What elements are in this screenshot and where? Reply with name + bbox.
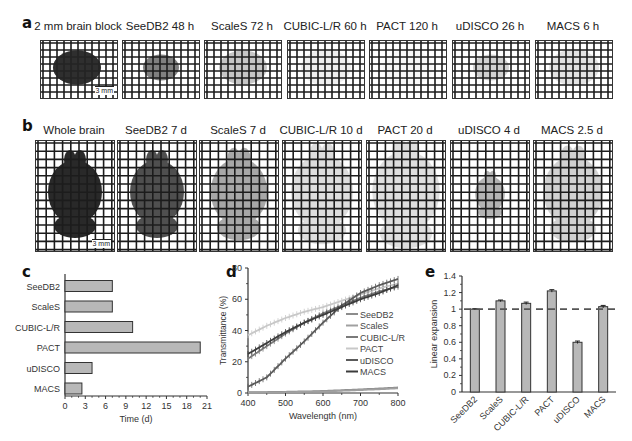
x-tick-label: 400 bbox=[240, 398, 255, 408]
y-tick-label: 1.4 bbox=[443, 271, 456, 281]
bar bbox=[65, 322, 133, 333]
category-label: uDISCO bbox=[26, 364, 60, 374]
panel-a-tissue-image: 3 mm bbox=[40, 40, 118, 99]
panel-c-clearing-time-bar-chart: SeeDB2ScaleSCUBIC-L/RPACTuDISCOMACS03691… bbox=[0, 260, 220, 441]
bar bbox=[496, 301, 505, 392]
x-tick-label: 3 bbox=[83, 401, 88, 411]
panel-b-brain-image: 3 mm bbox=[35, 140, 115, 252]
bar bbox=[65, 363, 92, 374]
x-tick-label: 15 bbox=[161, 401, 171, 411]
panel-a-tissue-image bbox=[287, 40, 365, 99]
bar bbox=[573, 342, 582, 392]
panel-a-tile-title: SeeDB2 48 h bbox=[116, 20, 204, 32]
panel-b-brain-image bbox=[533, 140, 613, 252]
x-axis-title: Wavelength (nm) bbox=[289, 411, 357, 421]
panel-a-tile-title: MACS 6 h bbox=[529, 20, 617, 32]
tissue-sample bbox=[549, 50, 599, 86]
category-label: ScaleS bbox=[31, 302, 60, 312]
panel-b-tile-title: MACS 2.5 d bbox=[527, 124, 617, 136]
y-tick-label: 0.4 bbox=[443, 354, 456, 364]
panel-b-brain-image bbox=[450, 140, 530, 252]
panel-a-tissue-image bbox=[369, 40, 447, 99]
legend-label: uDISCO bbox=[360, 356, 394, 366]
panel-a-tissue-image bbox=[535, 40, 613, 99]
panel-label-a: a bbox=[22, 14, 32, 32]
scale-bar: 3 mm bbox=[95, 86, 115, 95]
legend-label: CUBIC-L/R bbox=[360, 333, 406, 343]
x-tick-label: 600 bbox=[315, 398, 330, 408]
panel-b-tile-title: ScaleS 7 d bbox=[193, 124, 283, 136]
panel-b-tile-title: SeeDB2 7 d bbox=[111, 124, 201, 136]
bar bbox=[599, 307, 608, 392]
panel-a-tissue-image bbox=[204, 40, 282, 99]
x-axis-title: Time (d) bbox=[119, 414, 152, 424]
y-tick-label: 40 bbox=[232, 326, 242, 336]
x-tick-label: 800 bbox=[390, 398, 405, 408]
legend-label: ScaleS bbox=[360, 321, 389, 331]
y-tick-label: 20 bbox=[232, 357, 242, 367]
category-label: SeeDB2 bbox=[448, 394, 479, 425]
bar bbox=[65, 383, 82, 394]
scale-bar: 3 mm bbox=[92, 239, 112, 248]
category-label: CUBIC-L/R bbox=[15, 323, 61, 333]
legend-label: MACS bbox=[360, 367, 386, 377]
panel-a-tile-title: CUBIC-L/R 60 h bbox=[281, 20, 369, 32]
panel-b-tile-title: CUBIC-L/R 10 d bbox=[276, 124, 366, 136]
y-axis-title: Linear expansion bbox=[429, 300, 439, 369]
x-tick-label: 6 bbox=[103, 401, 108, 411]
panel-b-brain-image bbox=[366, 140, 446, 252]
category-label: SeeDB2 bbox=[26, 282, 60, 292]
brain-silhouette bbox=[372, 141, 440, 249]
y-axis-title: Transmittance (%) bbox=[218, 296, 228, 365]
bar bbox=[470, 309, 479, 392]
bar bbox=[522, 303, 531, 392]
bar bbox=[65, 301, 112, 312]
panel-b-brain-image bbox=[282, 140, 362, 252]
bar bbox=[547, 291, 556, 392]
panel-a-tile-title: PACT 120 h bbox=[363, 20, 451, 32]
y-tick-label: 1 bbox=[451, 304, 456, 314]
panel-e-linear-expansion-bar-chart: 00.20.40.60.811.21.4Linear expansionSeeD… bbox=[420, 260, 632, 441]
panel-b-tile-title: uDISCO 4 d bbox=[444, 124, 534, 136]
category-label: uDISCO bbox=[551, 394, 582, 425]
brain-silhouette bbox=[291, 143, 353, 244]
tissue-sample bbox=[383, 50, 433, 86]
panel-a-tissue-image bbox=[452, 40, 530, 99]
panel-b-brain-image bbox=[199, 140, 279, 252]
legend-label: SeeDB2 bbox=[360, 310, 394, 320]
panel-a-tile-title: ScaleS 72 h bbox=[198, 20, 286, 32]
y-tick-label: 60 bbox=[232, 294, 242, 304]
y-tick-label: 0.8 bbox=[443, 321, 456, 331]
x-tick-label: 500 bbox=[278, 398, 293, 408]
panel-b-tile-title: Whole brain bbox=[29, 124, 119, 136]
x-tick-label: 18 bbox=[182, 401, 192, 411]
y-tick-label: 0 bbox=[451, 387, 456, 397]
brain-silhouette bbox=[475, 171, 505, 219]
x-tick-label: 9 bbox=[123, 401, 128, 411]
category-label: MACS bbox=[582, 394, 607, 419]
bar bbox=[65, 281, 112, 292]
panel-b-brain-image bbox=[117, 140, 197, 252]
bar bbox=[65, 342, 200, 353]
panel-a-tile-title: uDISCO 26 h bbox=[446, 20, 534, 32]
panel-a-tile-title: 2 mm brain block bbox=[34, 20, 122, 32]
y-tick-label: 1.2 bbox=[443, 288, 456, 298]
panel-a-tissue-image bbox=[122, 40, 200, 99]
x-tick-label: 21 bbox=[202, 401, 212, 411]
category-label: MACS bbox=[34, 384, 60, 394]
panel-b-tile-title: PACT 20 d bbox=[360, 124, 450, 136]
y-tick-label: 0.2 bbox=[443, 370, 456, 380]
y-tick-label: 0.6 bbox=[443, 337, 456, 347]
x-tick-label: 0 bbox=[62, 401, 67, 411]
tissue-sample bbox=[301, 50, 351, 86]
category-label: PACT bbox=[37, 343, 61, 353]
legend-label: PACT bbox=[360, 344, 384, 354]
x-tick-label: 12 bbox=[141, 401, 151, 411]
category-label: PACT bbox=[533, 394, 557, 418]
tissue-sample bbox=[219, 51, 267, 85]
y-tick-label: 80 bbox=[232, 263, 242, 273]
panel-d-transmittance-line-chart: 020406080400500600700800Wavelength (nm)T… bbox=[215, 260, 420, 441]
y-tick-label: 0 bbox=[237, 388, 242, 398]
x-tick-label: 700 bbox=[353, 398, 368, 408]
